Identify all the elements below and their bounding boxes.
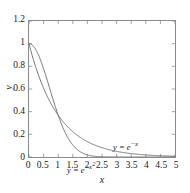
x-tick-label: 0.5	[37, 161, 49, 171]
x-tick-label: 4.5	[155, 161, 167, 171]
x-tick-label: 1.5	[66, 161, 78, 171]
annotation-exp-exponent: −x	[131, 140, 139, 147]
y-tick-label: 0.2	[13, 130, 25, 140]
plot-area: y = e−x y = e−x2	[28, 20, 176, 158]
x-tick-label: 3	[114, 161, 119, 171]
y-tick-label: 0.8	[13, 61, 25, 71]
x-axis-title: x	[28, 174, 176, 185]
figure-plot-exponential-decay: 00.20.40.60.811.2 y y = e−x y = e−x2 00.…	[0, 0, 190, 193]
y-tick-label: 0	[20, 153, 25, 163]
x-tick-label: 0	[26, 161, 31, 171]
y-tick-label: 0.6	[13, 84, 25, 94]
x-tick-label: 1	[55, 161, 60, 171]
x-tick-label: 2.5	[96, 161, 108, 171]
x-tick-label: 4	[144, 161, 149, 171]
y-tick-label: 1.2	[13, 15, 25, 25]
x-tick-label: 5	[174, 161, 179, 171]
y-tick-label: 0.4	[13, 107, 25, 117]
y-tick-label: 1	[20, 38, 25, 48]
y-axis-title: y	[3, 78, 14, 98]
curves-svg	[29, 21, 175, 157]
x-axis-tick-labels: 00.511.522.533.544.55	[28, 161, 176, 173]
annotation-exponential-curve: y = e−x	[113, 143, 138, 152]
x-tick-label: 3.5	[126, 161, 138, 171]
annotation-exp-base: y = e	[113, 142, 131, 152]
curve-series-1	[29, 44, 175, 157]
x-tick-label: 2	[85, 161, 90, 171]
curve-series-0	[29, 44, 175, 157]
